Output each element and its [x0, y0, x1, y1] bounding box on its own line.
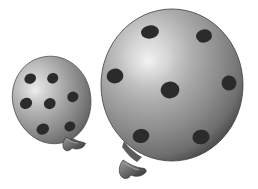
large-balloon-knot	[119, 160, 146, 179]
large-balloon-group	[101, 9, 243, 162]
balloon-scene: Two polka-dot balloons A small egg-shape…	[0, 0, 258, 189]
large-balloon-highlight	[120, 37, 176, 85]
large-balloon	[0, 0, 258, 189]
